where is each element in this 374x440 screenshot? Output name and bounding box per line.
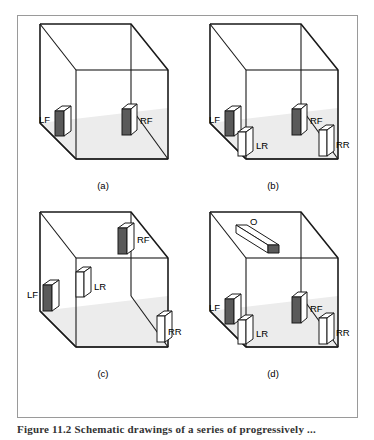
speaker-LR-side: [246, 315, 253, 344]
speaker-LF-label: LF: [209, 114, 220, 125]
speaker-LF-front: [43, 285, 52, 311]
ceiling-edge: [210, 24, 338, 70]
speaker-RR-side: [327, 313, 334, 344]
speaker-RF-label: RF: [310, 303, 323, 314]
speaker-RF[interactable]: RF: [118, 223, 150, 254]
speaker-RR-label: RR: [336, 139, 350, 150]
speaker-LR-front: [238, 132, 246, 156]
speaker-RF-front: [118, 228, 127, 254]
speaker-RF-label: RF: [310, 115, 323, 126]
speaker-RR-front: [319, 130, 327, 156]
figure-page: LF RF (a): [0, 0, 374, 440]
speaker-LF-front: [225, 111, 234, 136]
panel-d: O LF RF: [188, 201, 358, 391]
panel-b-label: (b): [188, 180, 358, 191]
speaker-LR-side: [84, 267, 91, 297]
diagonal-top-left: [40, 24, 76, 70]
speaker-LR-label: LR: [94, 281, 106, 292]
speaker-LF-side: [64, 106, 71, 136]
speaker-LR-front: [238, 320, 246, 344]
diagonal-top-left: [210, 24, 246, 70]
speaker-RR-label: RR: [336, 327, 350, 338]
speaker-LF[interactable]: LF: [27, 280, 59, 311]
speaker-LR-label: LR: [256, 328, 268, 339]
panel-a-label: (a): [18, 180, 188, 191]
room-diagram-c: LF RF LR: [18, 201, 188, 391]
speaker-RF-front: [292, 297, 301, 323]
speaker-RR-label: RR: [168, 326, 182, 337]
speaker-RF-label: RF: [137, 234, 150, 245]
speaker-O[interactable]: O: [236, 216, 279, 253]
speaker-RR-front: [157, 316, 165, 342]
diagonal-top-left: [40, 212, 76, 258]
speaker-RF-side: [127, 223, 134, 254]
speaker-LF[interactable]: LF: [209, 106, 241, 136]
speaker-LF-label: LF: [209, 302, 220, 313]
speaker-RF-side: [301, 104, 307, 135]
panel-c: LF RF LR: [18, 201, 188, 391]
speaker-RF-side: [301, 292, 307, 323]
speaker-LF-front: [225, 299, 234, 324]
speaker-LF-label: LF: [39, 114, 50, 125]
ceiling-edge: [40, 24, 168, 70]
figure-caption-clip: Figure 11.2 Schematic drawings of a seri…: [17, 424, 358, 440]
speaker-LF-front: [55, 111, 64, 136]
speaker-RF-front: [122, 109, 131, 135]
speaker-RR-side: [327, 125, 334, 156]
speaker-O-front: [268, 245, 279, 253]
speaker-O-label: O: [250, 216, 257, 227]
speaker-LF-side: [52, 280, 59, 311]
speaker-LF-label: LF: [27, 289, 38, 300]
panel-c-label: (c): [18, 368, 188, 379]
figure-frame: LF RF (a): [17, 15, 358, 418]
speaker-RR[interactable]: RR: [157, 311, 182, 342]
speaker-LR[interactable]: LR: [76, 267, 106, 297]
panel-b: LF RF LR: [188, 18, 358, 208]
speaker-RF-label: RF: [140, 115, 153, 126]
figure-caption: Figure 11.2 Schematic drawings of a seri…: [17, 424, 358, 435]
speaker-RR-front: [319, 318, 327, 344]
speaker-LR-label: LR: [256, 140, 268, 151]
room-diagram-d: O LF RF: [188, 201, 358, 391]
panel-a: LF RF (a): [18, 18, 188, 208]
speaker-LR-side: [246, 127, 253, 156]
speaker-RF-front: [292, 109, 301, 135]
speaker-LF[interactable]: LF: [39, 106, 71, 136]
panel-d-label: (d): [188, 368, 358, 379]
speaker-RF-side: [131, 104, 137, 135]
speaker-LF[interactable]: LF: [209, 294, 241, 324]
speaker-LR-front: [76, 272, 84, 297]
